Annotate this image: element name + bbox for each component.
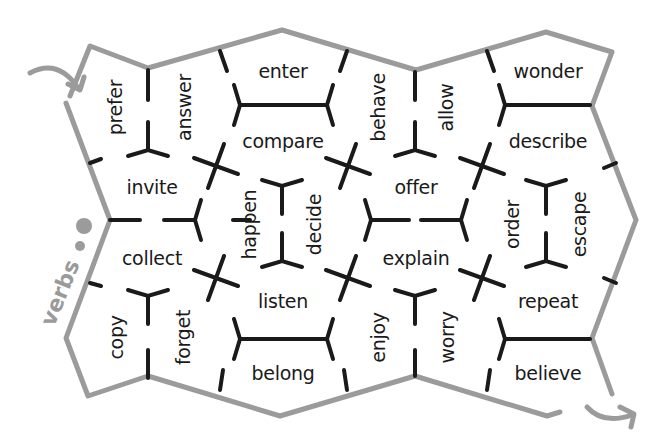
- edge-segment: [344, 370, 347, 390]
- y-junction: [395, 122, 435, 156]
- dot-icon: [76, 218, 92, 234]
- word-enjoy: enjoy: [368, 312, 387, 362]
- word-prefer: prefer: [106, 79, 125, 135]
- word-compare: compare: [242, 132, 323, 151]
- cross-junction: [194, 144, 238, 188]
- word-belong: belong: [252, 364, 315, 383]
- side-junction: [299, 85, 333, 125]
- edge-segment: [220, 51, 227, 71]
- outer-border: [66, 30, 636, 416]
- y-junction: [128, 122, 168, 156]
- word-wonder: wonder: [514, 62, 583, 81]
- word-believe: believe: [515, 364, 582, 383]
- edge-segment: [90, 159, 101, 163]
- cross-junction: [194, 256, 238, 300]
- edge-segment: [487, 370, 490, 390]
- side-junction: [499, 319, 533, 359]
- side-junction: [234, 85, 268, 125]
- word-worry: worry: [437, 311, 456, 363]
- word-allow: allow: [438, 83, 457, 131]
- word-behave: behave: [368, 73, 387, 142]
- word-invite: invite: [126, 178, 177, 197]
- word-collect: collect: [122, 249, 182, 268]
- word-explain: explain: [383, 249, 450, 268]
- y-junction: [262, 180, 302, 214]
- y-junction: [262, 233, 302, 267]
- word-copy: copy: [107, 315, 126, 359]
- edge-segment: [487, 51, 494, 71]
- word-repeat: repeat: [518, 292, 578, 311]
- side-junction: [299, 319, 333, 359]
- word-decide: decide: [306, 193, 325, 254]
- y-junction: [526, 180, 566, 214]
- cross-junction: [326, 256, 370, 300]
- cross-junction: [460, 256, 504, 300]
- y-junction: [395, 290, 435, 324]
- cross-junction: [326, 144, 370, 188]
- y-junction: [526, 233, 566, 267]
- word-happen: happen: [241, 189, 260, 259]
- verbs-puzzle: preferanswerentercomparebehaveallowwonde…: [0, 0, 666, 446]
- edge-segment: [90, 283, 101, 286]
- y-junction: [128, 290, 168, 324]
- word-order: order: [503, 199, 522, 248]
- word-listen: listen: [258, 292, 308, 311]
- word-answer: answer: [174, 74, 193, 141]
- cross-junction: [460, 144, 504, 188]
- edge-segment: [340, 51, 347, 71]
- word-forget: forget: [174, 309, 193, 364]
- edge-segment: [220, 370, 223, 390]
- side-junction: [234, 319, 268, 359]
- word-escape: escape: [570, 191, 589, 257]
- word-offer: offer: [394, 178, 437, 197]
- word-describe: describe: [509, 132, 588, 151]
- word-enter: enter: [258, 62, 307, 81]
- side-junction: [499, 85, 533, 125]
- dot-icon: [75, 241, 85, 251]
